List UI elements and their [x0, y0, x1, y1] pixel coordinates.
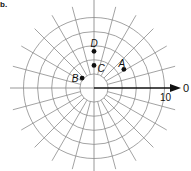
- point-label-b: B: [72, 73, 79, 84]
- grid-spoke: [13, 66, 81, 84]
- polar-grid-diagram: ABCD b. 10 0: [0, 0, 191, 171]
- grid-spoke: [72, 7, 90, 75]
- point-c: [92, 63, 97, 68]
- data-points: ABCD: [72, 38, 127, 84]
- scale-label: 10: [160, 92, 172, 103]
- grid-spoke: [35, 29, 84, 78]
- point-b: [80, 76, 85, 81]
- grid-spoke: [104, 29, 153, 78]
- grid-spoke: [13, 92, 81, 110]
- arrowhead-icon: [170, 84, 181, 92]
- grid-spoke: [104, 98, 153, 147]
- polar-grid: ABCD b. 10 0: [0, 0, 191, 171]
- figure-corner-label: b.: [0, 0, 7, 9]
- grid-spoke: [72, 102, 90, 170]
- point-label-c: C: [97, 63, 105, 74]
- point-label-a: A: [118, 58, 126, 69]
- grid-spoke: [98, 102, 116, 170]
- grid-spoke: [35, 98, 84, 147]
- zero-angle-label: 0: [183, 82, 189, 94]
- point-label-d: D: [90, 38, 97, 49]
- point-d: [92, 49, 97, 54]
- axes: [10, 0, 181, 171]
